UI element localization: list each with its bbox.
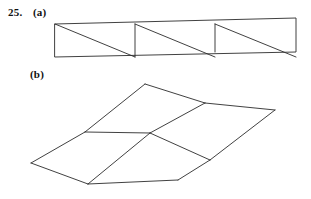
net-edge (31, 163, 88, 184)
net-edge (145, 84, 205, 103)
net-edge (210, 110, 275, 160)
net-edge (150, 133, 210, 160)
net-edge (88, 180, 178, 184)
net-edge-group (31, 84, 275, 184)
net-edge (205, 103, 275, 110)
net-edge (85, 84, 145, 132)
net-edge (150, 103, 205, 133)
figure-b-drawing (0, 0, 311, 199)
figure-25-container: 25. (a) (b) (0, 0, 311, 199)
net-edge (85, 132, 150, 133)
net-edge (31, 132, 85, 163)
net-edge (178, 160, 210, 180)
net-edge (88, 133, 150, 184)
